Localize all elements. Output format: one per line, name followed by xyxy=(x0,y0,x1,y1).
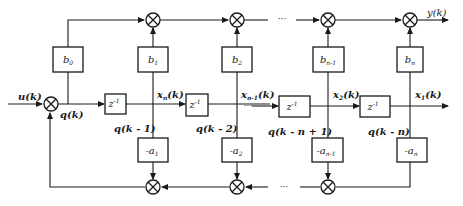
delay-2: z-1 xyxy=(186,94,208,116)
delay-out-label-4: q(k - n) xyxy=(368,126,410,137)
block-diagram: b0 b1 b2 bn-1 bn z-1 z-1 z-1 z-1 -a1 -a2 xyxy=(0,0,463,206)
gain-a1: -a1 xyxy=(138,138,168,162)
state-label-xn: xn(k) xyxy=(156,89,184,101)
b0-output-wire xyxy=(68,20,144,47)
gain-b1: b1 xyxy=(138,47,168,72)
gain-an-1: -an-1 xyxy=(312,138,343,162)
state-label-xn-1: xn-1(k) xyxy=(240,89,275,101)
gain-bn-1: bn-1 xyxy=(313,47,344,72)
state-label-x2: x2(k) xyxy=(332,89,360,101)
an-to-sum-wire xyxy=(336,162,410,187)
gain-an: -an xyxy=(397,138,427,162)
ellipsis-top: ··· xyxy=(278,14,287,24)
ellipsis-middle: ··· xyxy=(244,101,253,111)
summer-out-1 xyxy=(146,13,160,27)
summer-out-3 xyxy=(321,13,335,27)
ellipsis-bottom: ··· xyxy=(280,182,289,192)
summer-fb-2 xyxy=(230,180,244,194)
q-label: q(k) xyxy=(60,109,84,120)
summer-input xyxy=(44,97,58,111)
summer-fb-1 xyxy=(146,180,160,194)
gain-bn: bn xyxy=(397,47,423,72)
state-label-x1: x1(k) xyxy=(414,89,442,101)
gain-a2: -a2 xyxy=(222,138,252,162)
summer-out-4 xyxy=(403,13,417,27)
output-label: y(k) xyxy=(426,7,447,18)
delay-1: z-1 xyxy=(105,94,126,114)
delay-3: z-1 xyxy=(279,96,310,117)
delay-out-label-3: q(k - n + 1) xyxy=(268,126,332,137)
gain-b2: b2 xyxy=(222,47,252,72)
delay-out-label-1: q(k - 1) xyxy=(114,123,156,134)
delay-out-label-2: q(k - 2) xyxy=(196,123,238,134)
summer-out-2 xyxy=(230,13,244,27)
input-label: u(k) xyxy=(18,91,42,102)
summer-fb-3 xyxy=(321,180,335,194)
gain-b0: b0 xyxy=(53,47,83,72)
delay-4: z-1 xyxy=(360,96,390,117)
